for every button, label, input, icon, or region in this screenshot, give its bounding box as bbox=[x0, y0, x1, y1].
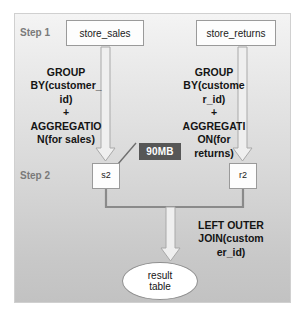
operation-label-right-aggregation: GROUP BY(custome r_id) + AGGREGATI ON(fo… bbox=[171, 66, 257, 160]
data-size-badge: 90MB bbox=[139, 143, 181, 160]
result-table-line-2: table bbox=[149, 281, 171, 293]
node-result-table[interactable]: result table bbox=[122, 262, 198, 300]
operation-label-left-outer-join: LEFT OUTER JOIN(custom er_id) bbox=[186, 219, 276, 259]
node-store-returns[interactable]: store_returns bbox=[196, 20, 276, 46]
diagram-canvas: Step 1 Step 2 store_sales store_returns … bbox=[0, 0, 301, 314]
step-2-label: Step 2 bbox=[20, 170, 50, 181]
node-s2[interactable]: s2 bbox=[92, 163, 120, 189]
node-r2[interactable]: r2 bbox=[229, 163, 257, 189]
result-table-line-1: result bbox=[148, 270, 172, 282]
operation-label-left-aggregation: GROUP BY(customer_ id) + AGGREGATIO N(fo… bbox=[22, 66, 110, 147]
step-1-label: Step 1 bbox=[20, 27, 50, 38]
node-store-sales[interactable]: store_sales bbox=[66, 20, 144, 46]
